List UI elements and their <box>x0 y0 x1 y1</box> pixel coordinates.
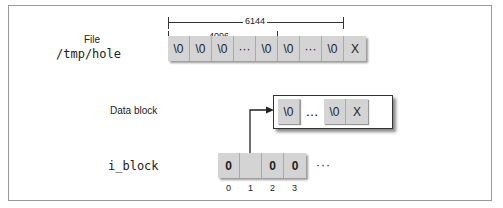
i-block-trailing-ellipsis: ··· <box>316 158 331 172</box>
i-block-cell: 0 <box>218 153 240 178</box>
i-block-index: 1 <box>248 183 253 193</box>
i-block-label: i_block <box>108 159 159 173</box>
i-block-cell: 0 <box>262 153 284 178</box>
i-block-index: 2 <box>270 183 275 193</box>
i-block-cell-pointer <box>240 153 262 178</box>
i-block-row: 0 0 0 <box>218 153 306 178</box>
i-block-index: 0 <box>226 183 231 193</box>
i-block-index: 3 <box>292 183 297 193</box>
i-block-cell: 0 <box>284 153 306 178</box>
